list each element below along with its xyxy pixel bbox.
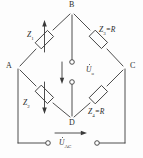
voltage-label-uac: UAC [59, 139, 71, 149]
voltage-arrow-uo-head [60, 78, 64, 84]
component-label-z1: Z1 [27, 31, 34, 41]
component-box-z4 [89, 85, 107, 103]
wire-b-c-right [107, 49, 123, 66]
component-label-z3-suffix: =R [106, 25, 116, 34]
wire-a-d-lower [53, 103, 70, 117]
voltage-label-uac-sub: AC [64, 144, 71, 149]
wire-b-c-left [74, 14, 90, 30]
terminal-source-left[interactable] [46, 141, 51, 146]
component-label-z2: Z2 [23, 99, 30, 109]
terminal-bridge-upper[interactable] [70, 60, 75, 65]
variable-arrow-z1-head [42, 20, 47, 27]
voltage-label-uo: Uo [86, 66, 94, 76]
variable-arrow-z2-head [42, 108, 47, 115]
voltage-arrow-uac-head [81, 131, 87, 135]
component-label-z3: Z3=R [99, 26, 115, 36]
node-label-b: B [69, 1, 74, 9]
wire-a-b-lower [20, 49, 36, 66]
circuit-svg [0, 0, 143, 158]
wire-a-d-upper [20, 70, 36, 86]
circuit-diagram: B A C D Z1 Z3=R Z2 Z4=R Uo UAC [0, 0, 143, 158]
node-label-d: D [69, 119, 75, 127]
terminal-bridge-lower[interactable] [70, 80, 75, 85]
component-label-z1-sub: 1 [31, 36, 34, 41]
component-label-z4-suffix: =R [95, 107, 105, 116]
node-label-a: A [6, 62, 12, 70]
wire-d-c-right [107, 70, 123, 86]
voltage-label-uo-sub: o [91, 71, 94, 76]
node-label-c: C [130, 62, 135, 70]
component-label-z4: Z4=R [88, 108, 104, 118]
terminal-source-right[interactable] [95, 141, 100, 146]
wire-a-b-upper [53, 14, 70, 30]
component-label-z2-sub: 2 [27, 104, 30, 109]
